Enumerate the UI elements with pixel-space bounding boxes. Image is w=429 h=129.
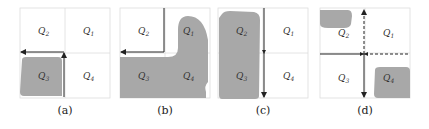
caption-c: (c) (243, 104, 283, 117)
svg-text:Q2: Q2 (38, 26, 49, 37)
svg-text:Q1: Q1 (283, 26, 294, 37)
caption-b: (b) (145, 104, 185, 117)
svg-text:Q1: Q1 (83, 26, 94, 37)
panel-a (20, 8, 110, 98)
svg-text:Q4: Q4 (283, 71, 294, 82)
svg-text:Q2: Q2 (138, 26, 149, 37)
panel-c (218, 8, 308, 99)
caption-d: (d) (345, 104, 385, 117)
region-q2-q3 (219, 11, 260, 99)
panel-d (320, 8, 410, 98)
svg-text:Q4: Q4 (83, 71, 94, 82)
svg-text:Q3: Q3 (338, 73, 349, 84)
region-q2-partial (320, 10, 352, 28)
panel-b (120, 8, 210, 98)
caption-a: (a) (45, 104, 85, 117)
svg-text:Q1: Q1 (383, 28, 394, 39)
svg-text:Q2: Q2 (338, 28, 349, 39)
panel-d-labels: Q2 Q1 Q3 Q4 (338, 28, 394, 84)
